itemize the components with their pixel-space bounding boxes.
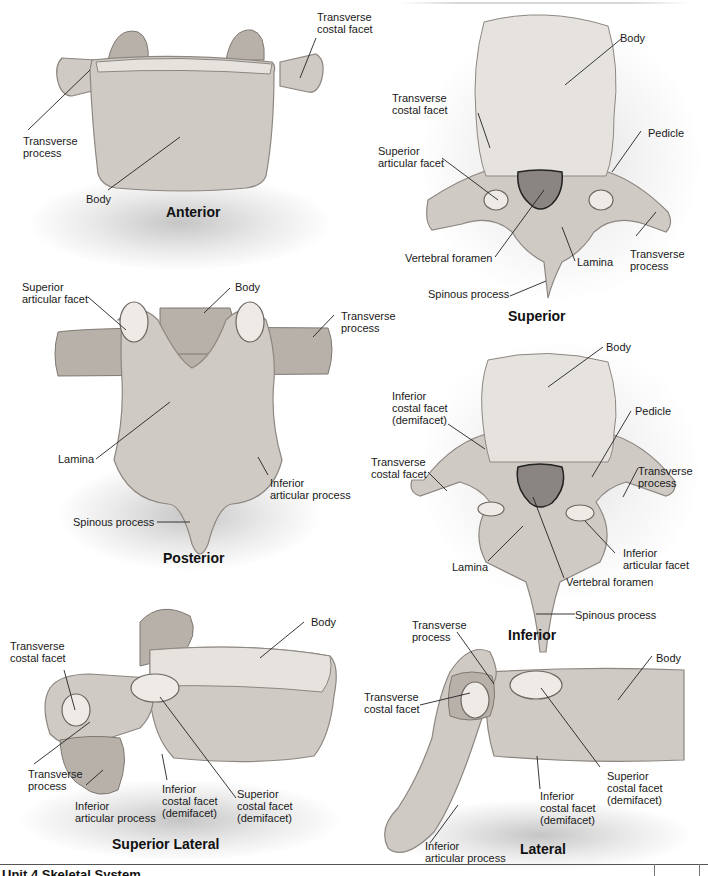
superior-lateral-label-superior-costal-facet: Superior costal facet (demifacet) xyxy=(237,788,293,824)
posterior-label-superior-articular-facet: Superior articular facet xyxy=(22,281,88,305)
lateral-label-transverse-costal-facet: Transverse costal facet xyxy=(364,691,420,715)
posterior-label-spinous-process: Spinous process xyxy=(73,516,154,528)
superior-label-pedicle: Pedicle xyxy=(648,127,684,139)
superior-label-lamina: Lamina xyxy=(577,256,613,268)
inferior-label-body: Body xyxy=(606,341,631,353)
superior-lateral-label-transverse-process: Transverse process xyxy=(28,768,83,792)
anterior-label-transverse-costal-facet: Transverse costal facet xyxy=(317,11,373,35)
view-title-lateral: Lateral xyxy=(520,841,566,857)
superior-label-spinous-process: Spinous process xyxy=(428,288,509,300)
view-title-inferior: Inferior xyxy=(508,627,556,643)
inferior-label-inferior-costal-facet: Inferior costal facet (demifacet) xyxy=(392,390,448,426)
lateral-label-superior-costal-facet: Superior costal facet (demifacet) xyxy=(607,770,663,806)
posterior-vertebra-drawing xyxy=(55,288,334,554)
inferior-label-vertebral-foramen: Vertebral foramen xyxy=(566,576,653,588)
view-title-superior: Superior xyxy=(508,308,566,324)
posterior-label-transverse-process: Transverse process xyxy=(341,310,396,334)
lateral-label-transverse-process: Transverse process xyxy=(412,619,467,643)
superior-label-vertebral-foramen: Vertebral foramen xyxy=(405,252,492,264)
posterior-label-lamina: Lamina xyxy=(58,453,94,465)
lateral-label-inferior-articular-process: Inferior articular process xyxy=(425,840,506,864)
lateral-vertebra-drawing xyxy=(385,632,684,852)
inferior-label-lamina: Lamina xyxy=(452,561,488,573)
superior-label-superior-articular-facet: Superior articular facet xyxy=(378,145,444,169)
inferior-label-transverse-costal-facet: Transverse costal facet xyxy=(371,456,427,480)
inferior-label-inferior-articular-facet: Inferior articular facet xyxy=(623,547,689,571)
footer-divider xyxy=(0,864,708,865)
posterior-label-body: Body xyxy=(235,281,260,293)
inferior-label-transverse-process: Transverse process xyxy=(638,465,693,489)
vertebra-illustrations xyxy=(0,0,708,876)
inferior-label-spinous-process: Spinous process xyxy=(575,609,656,621)
superior-lateral-label-inferior-costal-facet: Inferior costal facet (demifacet) xyxy=(162,783,218,819)
footer-page-box xyxy=(654,864,700,876)
view-title-superior-lateral: Superior Lateral xyxy=(112,836,219,852)
anterior-vertebra-drawing xyxy=(28,30,323,191)
view-title-anterior: Anterior xyxy=(166,204,220,220)
footer-unit-title: Unit 4 Skeletal System xyxy=(2,868,141,876)
superior-label-body: Body xyxy=(620,32,645,44)
superior-lateral-label-transverse-costal-facet: Transverse costal facet xyxy=(10,640,66,664)
view-title-posterior: Posterior xyxy=(163,550,224,566)
inferior-vertebra-drawing xyxy=(411,347,675,652)
superior-label-transverse-process: Transverse process xyxy=(630,248,685,272)
posterior-label-inferior-articular-process: Inferior articular process xyxy=(270,477,351,501)
lateral-label-inferior-costal-facet: Inferior costal facet (demifacet) xyxy=(540,790,596,826)
superior-lateral-label-body: Body xyxy=(311,616,336,628)
superior-lateral-label-inferior-articular-process: Inferior articular process xyxy=(75,800,156,824)
anterior-label-transverse-process: Transverse process xyxy=(23,135,78,159)
anterior-label-body: Body xyxy=(86,193,111,205)
inferior-label-pedicle: Pedicle xyxy=(635,405,671,417)
superior-label-transverse-costal-facet: Transverse costal facet xyxy=(392,92,448,116)
lateral-label-body: Body xyxy=(656,652,681,664)
